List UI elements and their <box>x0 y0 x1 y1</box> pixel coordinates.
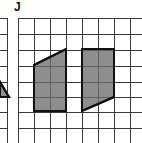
shapes <box>0 18 142 143</box>
figure-label: J <box>14 1 21 13</box>
grid-diagram <box>0 0 142 143</box>
grid-left-panel <box>0 18 8 143</box>
